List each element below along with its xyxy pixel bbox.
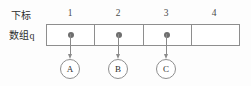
node-label-c: C — [163, 65, 169, 74]
index-number-3: 3 — [142, 9, 190, 19]
node-circle-b: B — [108, 59, 128, 79]
node-circle-a: A — [60, 59, 80, 79]
array-container — [46, 24, 240, 46]
index-number-1: 1 — [46, 9, 94, 19]
array-cell-3 — [144, 25, 192, 45]
arrow-shaft-1 — [70, 34, 71, 56]
array-cell-1 — [47, 25, 95, 45]
array-row-label: 数组q — [9, 31, 35, 41]
arrow-shaft-2 — [118, 34, 119, 56]
node-label-b: B — [115, 65, 121, 74]
node-label-a: A — [67, 65, 74, 74]
array-pointer-diagram: 下标 数组q 1 2 3 4 A B C — [0, 0, 251, 86]
index-row-label: 下标 — [11, 11, 32, 21]
index-number-2: 2 — [94, 9, 142, 19]
index-number-4: 4 — [190, 9, 238, 19]
arrow-shaft-3 — [166, 34, 167, 56]
array-cell-2 — [95, 25, 143, 45]
node-circle-c: C — [156, 59, 176, 79]
array-cell-4 — [192, 25, 239, 45]
